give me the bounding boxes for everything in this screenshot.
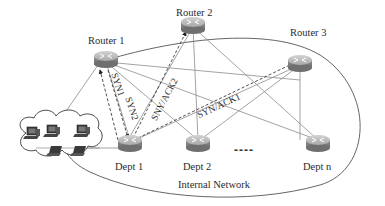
router-3-icon <box>288 55 312 72</box>
router-3-label: Router 3 <box>290 28 326 39</box>
dept-2-label: Dept 2 <box>183 162 211 173</box>
router-2-label: Router 2 <box>176 8 212 19</box>
router-1-label: Router 1 <box>88 36 124 47</box>
ellipsis-more-depts: ---- <box>234 144 254 156</box>
router-2-icon <box>181 17 205 34</box>
dept-1-label: Dept 1 <box>115 162 143 173</box>
dept-n-label: Dept n <box>303 162 331 173</box>
dept-1-router-icon <box>118 135 142 152</box>
internal-network-label: Internal Network <box>178 180 250 191</box>
dept-2-router-icon <box>186 135 210 152</box>
router-1-icon <box>94 51 118 68</box>
dept-n-router-icon <box>306 135 330 152</box>
network-diagram <box>0 0 385 206</box>
message-arrows <box>100 32 296 140</box>
